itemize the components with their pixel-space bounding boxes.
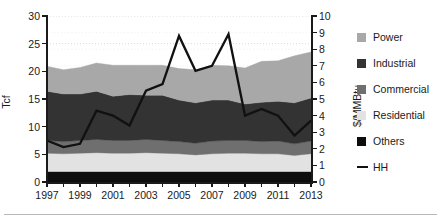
y-tick-right	[313, 115, 317, 116]
x-tick	[46, 183, 47, 187]
legend-label: Commercial	[373, 83, 429, 95]
x-tick	[63, 183, 64, 187]
legend-item-industrial[interactable]: Industrial	[357, 50, 441, 76]
x-tick-label: 2007	[195, 190, 229, 201]
chart-figure: 051015202530 012345678910 19971999200120…	[0, 0, 441, 224]
y-tick-label-right: 5	[319, 94, 325, 105]
x-tick-label: 2011	[261, 190, 295, 201]
x-tick	[228, 183, 229, 187]
x-tick-label: 1999	[63, 190, 97, 201]
y-tick-left	[42, 15, 46, 16]
y-tick-left	[42, 98, 46, 99]
legend-label: Industrial	[373, 57, 416, 69]
x-tick-label: 2009	[228, 190, 262, 201]
y-axis-title-left: Tcf	[0, 87, 12, 117]
x-tick	[79, 183, 80, 187]
y-tick-left	[42, 154, 46, 155]
x-tick	[129, 183, 130, 187]
y-tick-right	[313, 65, 317, 66]
x-tick	[211, 183, 212, 187]
y-tick-label-left: 30	[20, 11, 40, 22]
y-tick-right	[313, 49, 317, 50]
y-tick-label-right: 8	[319, 44, 325, 55]
x-tick	[261, 183, 262, 187]
y-tick-label-left: 15	[20, 94, 40, 105]
legend-item-hh[interactable]: HH	[357, 154, 441, 180]
y-tick-label-right: 10	[319, 11, 331, 22]
y-tick-label-right: 3	[319, 127, 325, 138]
y-tick-right	[313, 148, 317, 149]
left-axis-line	[46, 15, 48, 183]
x-tick	[244, 183, 245, 187]
legend-item-residential[interactable]: Residential	[357, 102, 441, 128]
legend-label: HH	[373, 161, 388, 173]
legend-label: Others	[373, 135, 405, 147]
y-tick-label-left: 0	[20, 177, 40, 188]
y-tick-label-right: 6	[319, 77, 325, 88]
y-tick-left	[42, 43, 46, 44]
y-tick-label-left: 20	[20, 66, 40, 77]
y-tick-label-right: 7	[319, 61, 325, 72]
area-band-others	[47, 171, 311, 182]
plot-area	[47, 16, 311, 182]
y-tick-label-left: 5	[20, 149, 40, 160]
y-tick-right	[313, 181, 317, 182]
y-tick-label-left: 10	[20, 122, 40, 133]
x-tick	[112, 183, 113, 187]
x-tick	[310, 183, 311, 187]
y-tick-label-right: 2	[319, 144, 325, 155]
y-tick-right	[313, 82, 317, 83]
legend-swatch-icon	[357, 59, 366, 68]
y-tick-right	[313, 132, 317, 133]
y-tick-right	[313, 98, 317, 99]
y-tick-label-right: 9	[319, 28, 325, 39]
y-tick-right	[313, 165, 317, 166]
footer-divider	[4, 214, 437, 215]
legend-label: Residential	[373, 109, 425, 121]
x-tick-label: 2001	[96, 190, 130, 201]
legend-line-marker	[357, 166, 368, 168]
legend-swatch-icon	[357, 137, 366, 146]
y-tick-left	[42, 126, 46, 127]
legend-item-others[interactable]: Others	[357, 128, 441, 154]
legend-swatch-icon	[357, 85, 366, 94]
x-tick	[96, 183, 97, 187]
y-tick-label-left: 25	[20, 39, 40, 50]
y-tick-label-right: 4	[319, 111, 325, 122]
y-tick-right	[313, 32, 317, 33]
y-tick-left	[42, 71, 46, 72]
x-tick	[162, 183, 163, 187]
legend-swatch-icon	[357, 111, 366, 120]
x-tick-label: 2013	[294, 190, 328, 201]
y-tick-label-right: 1	[319, 160, 325, 171]
x-tick	[294, 183, 295, 187]
x-tick-label: 1997	[30, 190, 64, 201]
y-tick-label-right: 0	[319, 177, 325, 188]
y-tick-right	[313, 15, 317, 16]
x-tick	[195, 183, 196, 187]
legend-label: Power	[373, 31, 403, 43]
x-tick	[145, 183, 146, 187]
x-tick	[178, 183, 179, 187]
legend-item-commercial[interactable]: Commercial	[357, 76, 441, 102]
legend-swatch-icon	[357, 33, 366, 42]
legend-item-power[interactable]: Power	[357, 24, 441, 50]
x-tick-label: 2005	[162, 190, 196, 201]
chart-legend: PowerIndustrialCommercialResidentialOthe…	[357, 24, 441, 180]
area-band-residential	[47, 153, 311, 172]
stacked-area-chart-svg	[47, 16, 311, 182]
x-tick-label: 2003	[129, 190, 163, 201]
x-tick	[277, 183, 278, 187]
